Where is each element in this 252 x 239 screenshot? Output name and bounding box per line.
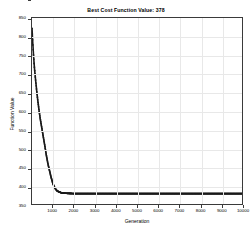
x-tick-label: 4000 — [105, 208, 127, 213]
x-tick-label: 6000 — [147, 208, 169, 213]
chart-figure: Best Cost Function Value: 378 Function V… — [0, 0, 252, 239]
y-tick-mark — [28, 150, 31, 151]
y-tick-label: 800 — [10, 33, 26, 38]
y-tick-mark — [28, 113, 31, 114]
plot-area — [31, 17, 243, 205]
gridline-vertical — [180, 18, 181, 204]
gridline-horizontal — [32, 168, 242, 169]
y-tick-label: 850 — [10, 15, 26, 20]
gridline-vertical — [53, 18, 54, 204]
y-tick-mark — [28, 0, 31, 1]
y-tick-label: 400 — [10, 184, 26, 189]
gridline-horizontal — [32, 56, 242, 57]
y-tick-mark — [28, 132, 31, 133]
gridline-vertical — [202, 18, 203, 204]
gridline-vertical — [117, 18, 118, 204]
gridline-horizontal — [32, 37, 242, 38]
gridline-vertical — [159, 18, 160, 204]
gridline-horizontal — [32, 187, 242, 188]
x-tick-label: 2000 — [62, 208, 84, 213]
y-tick-label: 700 — [10, 71, 26, 76]
gridline-horizontal — [32, 112, 242, 113]
x-tick-label: 5000 — [126, 208, 148, 213]
x-tick-label: 1000 — [41, 208, 63, 213]
y-tick-mark — [28, 188, 31, 189]
y-tick-label: 750 — [10, 52, 26, 57]
y-tick-mark — [28, 94, 31, 95]
chart-title: Best Cost Function Value: 378 — [0, 7, 252, 13]
x-tick-label: 9000 — [211, 208, 233, 213]
series-curve — [32, 18, 242, 204]
gridline-horizontal — [32, 131, 242, 132]
y-tick-mark — [28, 75, 31, 76]
y-tick-mark — [28, 19, 31, 20]
y-tick-label: 600 — [10, 109, 26, 114]
gridline-horizontal — [32, 150, 242, 151]
y-tick-label: 450 — [10, 165, 26, 170]
gridline-horizontal — [32, 74, 242, 75]
x-axis-title: Generation — [31, 218, 243, 224]
gridline-vertical — [223, 18, 224, 204]
gridline-vertical — [138, 18, 139, 204]
gridline-vertical — [74, 18, 75, 204]
y-tick-mark — [28, 56, 31, 57]
x-tick-label: 8000 — [190, 208, 212, 213]
gridline-horizontal — [32, 93, 242, 94]
y-axis-title: Function Value — [9, 74, 15, 154]
x-tick-label: 7000 — [168, 208, 190, 213]
y-tick-mark — [28, 169, 31, 170]
y-tick-label: 350 — [10, 203, 26, 208]
gridline-vertical — [96, 18, 97, 204]
y-tick-label: 500 — [10, 146, 26, 151]
y-tick-label: 650 — [10, 90, 26, 95]
y-tick-mark — [28, 38, 31, 39]
x-tick-label: 10000 — [232, 208, 252, 213]
x-tick-label: 3000 — [84, 208, 106, 213]
y-tick-label: 550 — [10, 127, 26, 132]
